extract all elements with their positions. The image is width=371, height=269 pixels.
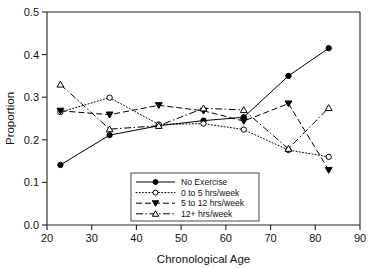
x-axis-title: Chronological Age [157, 253, 250, 265]
chart-container: 0.00.10.20.30.40.5 Proportion 2030405060… [0, 0, 371, 269]
legend-label: No Exercise [181, 177, 228, 187]
data-point-marker [107, 132, 112, 137]
chart-legend: No Exercise0 to 5 hrs/week5 to 12 hrs/we… [131, 173, 259, 221]
y-axis-title: Proportion [4, 92, 16, 145]
data-point-marker [241, 127, 246, 132]
x-tick-label: 30 [86, 232, 98, 244]
x-tick-label: 20 [41, 232, 53, 244]
x-tick-label: 80 [309, 232, 321, 244]
y-tick-label: 0.2 [24, 134, 39, 146]
y-tick-label: 0.3 [24, 91, 39, 103]
legend-label: 0 to 5 hrs/week [181, 188, 240, 198]
legend-marker-icon [153, 190, 158, 195]
data-point-marker [201, 121, 206, 126]
line-chart: 0.00.10.20.30.40.5 Proportion 2030405060… [0, 0, 371, 269]
x-tick-label: 40 [130, 232, 142, 244]
data-point-marker [107, 95, 112, 100]
legend-marker-icon [153, 180, 158, 185]
x-tick-label: 70 [264, 232, 276, 244]
y-tick-label: 0.0 [24, 219, 39, 231]
data-point-marker [58, 162, 63, 167]
y-tick-label: 0.5 [24, 6, 39, 18]
x-tick-label: 60 [220, 232, 232, 244]
legend-label: 5 to 12 hrs/week [181, 198, 245, 208]
x-tick-label: 90 [354, 232, 366, 244]
data-point-marker [326, 154, 331, 159]
y-tick-label: 0.1 [24, 176, 39, 188]
legend-label: 12+ hrs/week [181, 209, 233, 219]
data-point-marker [286, 73, 291, 78]
y-tick-label: 0.4 [24, 49, 39, 61]
x-tick-label: 50 [175, 232, 187, 244]
data-point-marker [326, 46, 331, 51]
